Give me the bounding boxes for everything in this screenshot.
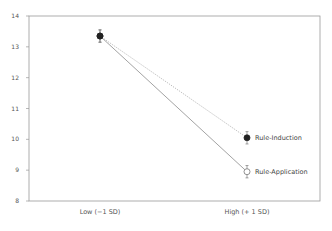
y-tick-label: 12 (11, 74, 19, 81)
filled-circle-marker (97, 33, 103, 39)
series-lines (100, 36, 247, 172)
interaction-line-chart: 891011121314 Rule-InductionRule-Applicat… (0, 0, 332, 231)
x-axis-categories: Low (−1 SD)High (+ 1 SD) (80, 208, 270, 216)
x-category-label: Low (−1 SD) (80, 208, 121, 216)
y-tick-label: 13 (11, 43, 19, 50)
series-label: Rule-Induction (255, 134, 302, 142)
y-axis: 891011121314 (11, 12, 29, 204)
y-tick-label: 8 (15, 197, 19, 204)
x-axis-title-partial: ▁▁▁ ▁▁▁▁ ▁▁▁▁▁▁▁ ▁▁▁▁ (121, 226, 219, 231)
series-line (100, 36, 247, 172)
y-tick-label: 10 (11, 135, 19, 142)
y-tick-label: 11 (11, 105, 19, 112)
series-label: Rule-Application (255, 168, 308, 176)
series-labels: Rule-InductionRule-Application (255, 134, 308, 176)
x-category-label: High (+ 1 SD) (225, 208, 270, 216)
open-circle-marker (244, 169, 250, 175)
series-line (100, 36, 247, 138)
filled-circle-marker (244, 135, 250, 141)
y-tick-label: 14 (11, 12, 19, 19)
y-tick-label: 9 (15, 166, 19, 173)
